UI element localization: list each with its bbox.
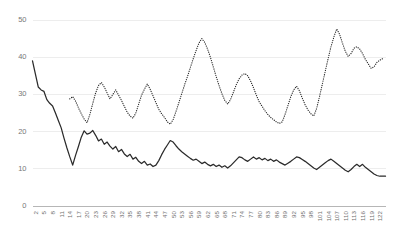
x-axis-tick-label: 89 — [281, 210, 288, 217]
x-axis-tick-label: 98 — [307, 210, 314, 217]
x-axis-tick-label: 95 — [299, 210, 306, 217]
x-axis-tick-label: 110 — [342, 210, 349, 220]
y-axis-tick-label: 50 — [18, 15, 26, 24]
x-axis-tick-label: 104 — [325, 210, 332, 221]
x-axis-tick-label: 38 — [135, 210, 142, 217]
x-axis-tick-label: 47 — [161, 210, 168, 217]
x-axis-tick-label: 44 — [152, 210, 159, 217]
x-axis-tick-label: 35 — [126, 210, 133, 217]
series-group — [33, 29, 386, 176]
x-axis-tick-label: 80 — [256, 210, 263, 217]
y-axis-tick-label: 0 — [22, 201, 26, 210]
chart-container: 50403020100 2581114172023262932353841444… — [0, 0, 393, 241]
x-axis-labels-group: 2581114172023262932353841444750535659626… — [32, 210, 383, 221]
y-axis-labels-group: 50403020100 — [18, 15, 26, 210]
x-axis-tick-label: 2 — [32, 210, 39, 214]
x-axis-tick-label: 68 — [221, 210, 228, 217]
line-chart: 50403020100 2581114172023262932353841444… — [0, 0, 393, 241]
x-axis-tick-label: 53 — [178, 210, 185, 217]
x-axis-tick-label: 50 — [170, 210, 177, 217]
x-axis-tick-label: 26 — [101, 210, 108, 217]
x-axis-tick-label: 59 — [195, 210, 202, 217]
x-axis-tick-label: 107 — [333, 210, 340, 221]
x-axis-tick-label: 101 — [316, 210, 323, 221]
x-axis-tick-label: 122 — [376, 210, 383, 221]
x-axis-tick-label: 92 — [290, 210, 297, 217]
x-axis-tick-label: 14 — [66, 210, 73, 217]
x-axis-tick-label: 32 — [118, 210, 125, 217]
x-axis-tick-label: 83 — [264, 210, 271, 217]
x-axis-tick-label: 74 — [238, 210, 245, 217]
x-axis-tick-label: 62 — [204, 210, 211, 217]
x-axis-tick-label: 11 — [58, 210, 65, 217]
x-axis-tick-label: 65 — [213, 210, 220, 217]
x-axis-tick-label: 116 — [359, 210, 366, 220]
x-axis-tick-label: 56 — [187, 210, 194, 217]
x-axis-tick-label: 20 — [83, 210, 90, 217]
data-series-solid — [33, 61, 386, 176]
x-axis-tick-label: 86 — [273, 210, 280, 217]
gridlines-group — [33, 20, 386, 206]
x-axis-tick-label: 113 — [350, 210, 357, 220]
x-axis-tick-label: 17 — [75, 210, 82, 217]
y-axis-tick-label: 30 — [18, 89, 26, 98]
x-axis-tick-label: 5 — [40, 210, 47, 214]
x-axis-tick-label: 77 — [247, 210, 254, 217]
x-axis-tick-label: 8 — [49, 210, 56, 214]
x-axis-tick-label: 29 — [109, 210, 116, 217]
x-axis-tick-label: 41 — [144, 210, 151, 217]
y-axis-tick-label: 10 — [18, 164, 26, 173]
x-axis-tick-label: 23 — [92, 210, 99, 217]
x-axis-tick-label: 119 — [368, 210, 375, 220]
data-series-dotted — [70, 29, 383, 124]
y-axis-tick-label: 40 — [18, 52, 26, 61]
y-axis-tick-label: 20 — [18, 127, 26, 136]
x-axis-tick-label: 71 — [230, 210, 237, 217]
